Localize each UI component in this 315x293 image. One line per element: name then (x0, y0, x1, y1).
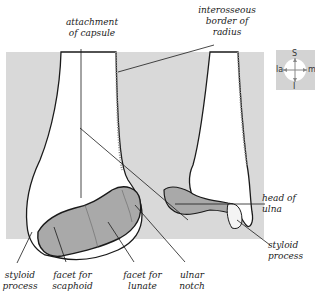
leader-styloid-ulna (237, 220, 270, 245)
orientation-medial: m (308, 65, 315, 74)
label-facet-for-scaphoid: facet for scaphoid (45, 270, 100, 292)
label-styloid-process-radius: styloid process (0, 270, 40, 292)
label-styloid-process-ulna: styloid process (268, 240, 313, 262)
label-facet-for-lunate: facet for lunate (115, 270, 170, 292)
orientation-inferior: I (293, 82, 295, 91)
leader-interosseous (118, 45, 214, 72)
orientation-lateral: la (276, 65, 283, 74)
label-interosseous-border: interosseous border of radius (192, 5, 262, 38)
orientation-compass-icon (283, 58, 307, 82)
leader-styloid-radius (17, 232, 32, 263)
label-attachment-of-capsule: attachment of capsule (57, 17, 127, 39)
leader-ulnar-notch-lower (135, 205, 185, 262)
label-head-of-ulna: head of ulna (262, 193, 312, 215)
orientation-superior: S (292, 49, 297, 58)
label-ulnar-notch: ulnar notch (172, 270, 212, 292)
